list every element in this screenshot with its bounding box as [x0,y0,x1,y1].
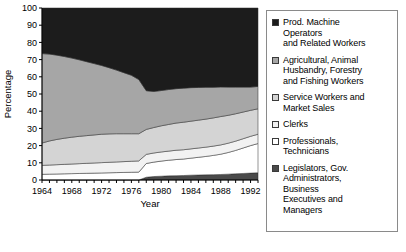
y-tick-label: 80 [27,38,37,48]
legend-item-label: Legislators, Gov. Administrators, Busine… [283,163,348,216]
x-tick-label: 1984 [181,186,201,196]
legend-item-3: Clerks [272,119,393,130]
x-tick-label: 1976 [121,186,141,196]
legend-item-5: Legislators, Gov. Administrators, Busine… [272,163,393,216]
stacked-area-chart-figure: 0102030405060708090100 19641968197219761… [0,0,406,252]
x-tick-label: 1988 [211,186,231,196]
y-axis-tick-labels: 0102030405060708090100 [22,3,42,185]
legend-swatch-icon [272,94,279,101]
x-tick-label: 1992 [241,186,261,196]
y-tick-label: 20 [27,141,37,151]
y-tick-label: 100 [22,3,37,13]
legend-swatch-icon [272,19,279,26]
x-tick-label: 1968 [62,186,82,196]
legend-swatch-icon [272,57,279,64]
legend-swatch-icon [272,165,279,172]
x-axis-title: Year [140,198,159,209]
legend-item-4: Professionals, Technicians [272,136,393,157]
chart-legend: Prod. Machine Operators and Related Work… [266,10,398,232]
x-tick-label: 1972 [92,186,112,196]
y-tick-label: 40 [27,106,37,116]
x-axis-tick-labels: 19641968197219761980198419881992 [32,180,261,196]
x-tick-label: 1980 [151,186,171,196]
stacked-areas [42,8,258,180]
y-tick-label: 60 [27,72,37,82]
legend-item-label: Clerks [283,119,308,130]
legend-swatch-icon [272,138,279,145]
y-tick-label: 70 [27,55,37,65]
x-tick-label: 1964 [32,186,52,196]
legend-swatch-icon [272,121,279,128]
legend-item-label: Professionals, Technicians [283,136,338,157]
legend-item-1: Agricultural, Animal Husbandry, Forestry… [272,55,393,87]
y-tick-label: 10 [27,158,37,168]
y-tick-label: 0 [32,175,37,185]
legend-item-label: Agricultural, Animal Husbandry, Forestry… [283,55,363,87]
chart-plot-area: 0102030405060708090100 19641968197219761… [0,0,262,215]
legend-item-label: Prod. Machine Operators and Related Work… [283,17,365,49]
y-tick-label: 90 [27,20,37,30]
legend-item-label: Service Workers and Market Sales [283,92,364,113]
legend-item-2: Service Workers and Market Sales [272,92,393,113]
y-tick-label: 30 [27,124,37,134]
y-axis-title: Percentage [2,70,13,119]
y-tick-label: 50 [27,89,37,99]
legend-item-0: Prod. Machine Operators and Related Work… [272,17,393,49]
